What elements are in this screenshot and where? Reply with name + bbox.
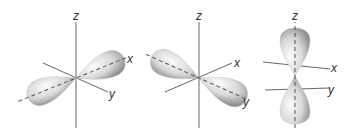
y-axis-label: y: [109, 88, 115, 100]
z-axis-label: z: [196, 10, 202, 22]
y-axis-label: y: [328, 84, 334, 96]
x-axis-label: x: [234, 57, 240, 69]
panel-pz-orbital: [263, 22, 330, 128]
y-axis-label: y: [243, 96, 249, 108]
panel-px-orbital: [14, 22, 133, 128]
x-axis-label: x: [331, 62, 337, 74]
p-orbitals-figure: z x y z x y z x y: [0, 0, 346, 139]
x-axis-label: x: [127, 53, 133, 65]
lobe-negative: [146, 45, 204, 90]
z-axis-label: z: [73, 10, 79, 22]
z-axis-label: z: [292, 10, 298, 22]
panel-py-orbital: [141, 22, 254, 128]
